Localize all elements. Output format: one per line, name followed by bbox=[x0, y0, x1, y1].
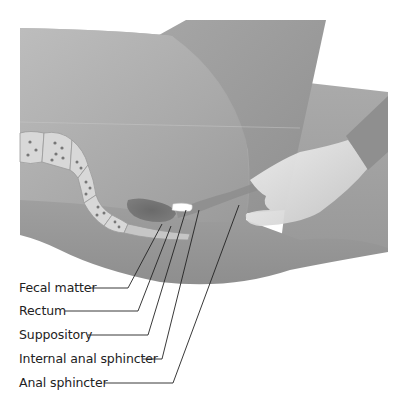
label-fecal-matter: Fecal matter bbox=[19, 281, 96, 295]
suppository bbox=[172, 203, 192, 211]
label-internal-anal-sphincter: Internal anal sphincter bbox=[19, 352, 158, 366]
label-suppository: Suppository bbox=[19, 328, 92, 342]
label-anal-sphincter: Anal sphincter bbox=[19, 376, 108, 390]
label-rectum: Rectum bbox=[19, 304, 66, 318]
